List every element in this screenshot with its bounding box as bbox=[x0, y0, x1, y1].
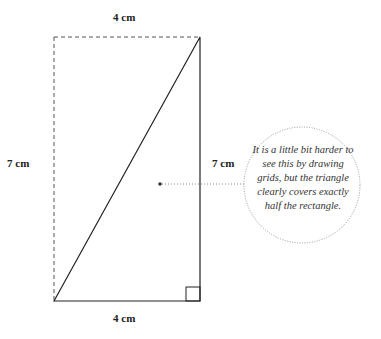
centroid-dot bbox=[158, 182, 162, 186]
right-angle-marker bbox=[186, 287, 200, 301]
callout-text: It is a little bit harder to see this by… bbox=[250, 143, 356, 213]
right-height-label: 7 cm bbox=[212, 157, 234, 169]
top-width-label: 4 cm bbox=[113, 11, 135, 23]
bottom-width-label: 4 cm bbox=[113, 312, 135, 324]
right-triangle bbox=[54, 37, 200, 301]
left-height-label: 7 cm bbox=[7, 157, 29, 169]
